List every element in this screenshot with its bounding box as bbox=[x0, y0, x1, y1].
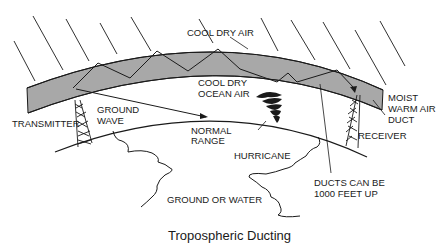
label-cool-dry-ocean-air-2: OCEAN AIR bbox=[198, 88, 250, 99]
diagram-title: Tropospheric Ducting bbox=[168, 228, 291, 243]
label-ground-wave-1: GROUND bbox=[97, 104, 139, 115]
label-receiver: RECEIVER bbox=[358, 130, 407, 141]
label-ducts-2: 1000 FEET UP bbox=[314, 188, 378, 199]
label-ground-or-water: GROUND OR WATER bbox=[167, 194, 262, 205]
label-normal-range-2: RANGE bbox=[191, 135, 225, 146]
label-transmitter: TRANSMITTER bbox=[12, 118, 80, 129]
label-ground-wave-2: WAVE bbox=[97, 115, 124, 126]
ground-wave-ray bbox=[76, 89, 206, 117]
label-cool-dry-air: COOL DRY AIR bbox=[187, 27, 254, 38]
label-hurricane: HURRICANE bbox=[234, 150, 290, 161]
label-moist-3: DUCT bbox=[388, 114, 415, 125]
ground-coastline-left bbox=[113, 131, 172, 207]
tropospheric-ducting-diagram: COOL DRY AIR COOL DRY OCEAN AIR MOIST WA… bbox=[0, 0, 441, 251]
label-moist-1: MOIST bbox=[388, 92, 418, 103]
label-cool-dry-ocean-air-1: COOL DRY bbox=[198, 77, 248, 88]
label-ducts-1: DUCTS CAN BE bbox=[314, 177, 385, 188]
hurricane-icon bbox=[256, 92, 282, 123]
ground-wave-arrow-head bbox=[200, 113, 208, 119]
label-moist-2: WARM AIR bbox=[388, 103, 436, 114]
